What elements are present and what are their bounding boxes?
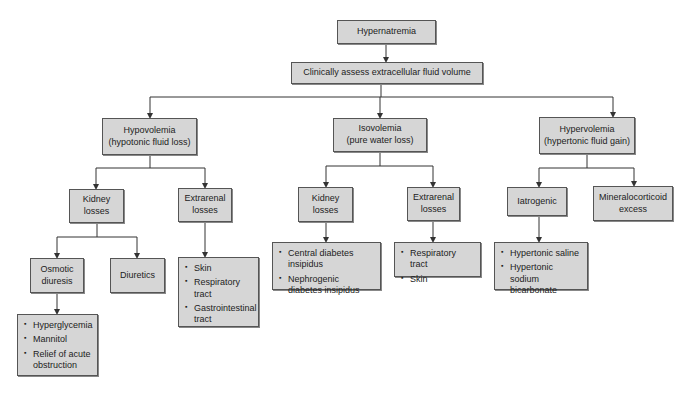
node-hypernatremia: Hypernatremia	[337, 20, 436, 44]
node-osmotic-diuresis: Osmotic diuresis	[30, 258, 84, 293]
node-line: losses	[421, 204, 447, 216]
list-item: Hypertonic saline	[501, 248, 581, 259]
node-line: Mineralocorticoid	[599, 192, 667, 204]
node-line: Osmotic	[40, 264, 73, 276]
node-hypo-extrarenal-list: Skin Respiratory tract Gastrointestinal …	[178, 257, 259, 327]
node-hypervolemia: Hypervolemia (hypertonic fluid gain)	[539, 117, 635, 154]
node-hypo-kidney-losses: Kidney losses	[69, 189, 124, 223]
list-item: Relief of acute obstruction	[24, 349, 93, 372]
node-iso-kidney-list: Central diabetes insipidus Nephrogenic d…	[272, 242, 381, 290]
node-subtitle: (hypotonic fluid loss)	[108, 137, 190, 149]
node-title: Isovolemia	[358, 123, 401, 135]
node-line: losses	[192, 205, 218, 217]
list-item: Skin	[185, 263, 257, 274]
list-item: Central diabetes insipidus	[279, 248, 374, 271]
node-line: excess	[619, 204, 647, 216]
node-title: Hypovolemia	[123, 125, 175, 137]
list-item: Skin	[401, 274, 474, 285]
list-item: Nephrogenic diabetes insipidus	[279, 274, 374, 297]
node-subtitle: (hypertonic fluid gain)	[544, 136, 630, 148]
node-hypo-extrarenal-losses: Extrarenal losses	[178, 188, 232, 222]
node-label: Hypernatremia	[357, 26, 416, 38]
node-line: losses	[84, 206, 110, 218]
list-item: Gastrointestinal tract	[185, 303, 257, 326]
list-item: Hyperglycemia	[24, 320, 93, 331]
node-line: diuresis	[41, 276, 72, 288]
node-iso-extrarenal-losses: Extrarenal losses	[407, 187, 460, 221]
list-item: Respiratory tract	[185, 277, 257, 300]
node-diuretics: Diuretics	[110, 258, 165, 293]
node-line: Iatrogenic	[517, 196, 557, 208]
node-label: Clinically assess extracellular fluid vo…	[303, 67, 471, 79]
list-item: Respiratory tract	[401, 248, 474, 271]
node-line: losses	[313, 205, 339, 217]
node-line: Diuretics	[120, 270, 155, 282]
node-mineralocorticoid-excess: Mineralocorticoid excess	[593, 186, 673, 221]
node-assess-ecf-volume: Clinically assess extracellular fluid vo…	[291, 62, 483, 84]
node-hypovolemia: Hypovolemia (hypotonic fluid loss)	[102, 118, 197, 155]
node-title: Hypervolemia	[559, 124, 614, 136]
node-isovolemia: Isovolemia (pure water loss)	[333, 118, 427, 152]
node-line: Kidney	[312, 193, 340, 205]
node-iso-kidney-losses: Kidney losses	[298, 187, 353, 222]
node-iatrogenic: Iatrogenic	[507, 187, 567, 216]
node-line: Extrarenal	[184, 193, 225, 205]
node-subtitle: (pure water loss)	[346, 135, 413, 147]
node-line: Extrarenal	[413, 192, 454, 204]
node-iso-extrarenal-list: Respiratory tract Skin	[394, 242, 481, 277]
node-osmotic-causes-list: Hyperglycemia Mannitol Relief of acute o…	[17, 314, 98, 376]
list-item: Mannitol	[24, 334, 93, 345]
node-iatrogenic-list: Hypertonic saline Hypertonic sodium bica…	[494, 242, 588, 290]
list-item: Hypertonic sodium bicarbonate	[501, 262, 581, 296]
node-line: Kidney	[83, 194, 111, 206]
